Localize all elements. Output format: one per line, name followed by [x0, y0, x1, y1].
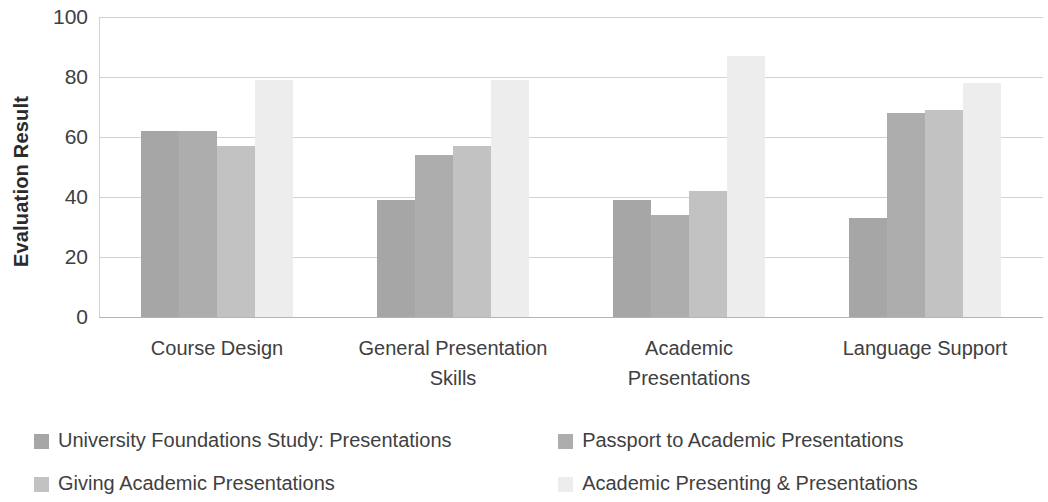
- legend-swatch-icon: [34, 477, 49, 492]
- bar[interactable]: [255, 80, 293, 317]
- bar-cluster: [613, 17, 765, 317]
- legend-swatch-icon: [34, 434, 49, 449]
- y-tick-label-80: 80: [65, 65, 88, 89]
- bar-groups: [99, 17, 1043, 317]
- bar-cluster: [141, 17, 293, 317]
- legend-label: Academic Presenting & Presentations: [582, 472, 918, 495]
- x-axis-label: Course Design: [99, 327, 335, 403]
- y-tick-label-20: 20: [65, 245, 88, 269]
- bar-cluster: [849, 17, 1001, 317]
- bar[interactable]: [887, 113, 925, 317]
- legend-item-passport-to-academic-presentations[interactable]: Passport to Academic Presentations: [558, 419, 1048, 462]
- bar[interactable]: [217, 146, 255, 317]
- bar[interactable]: [613, 200, 651, 317]
- y-tick-label-40: 40: [65, 185, 88, 209]
- bar[interactable]: [727, 56, 765, 317]
- legend-label: University Foundations Study: Presentati…: [58, 429, 452, 452]
- legend-label: Giving Academic Presentations: [58, 472, 335, 495]
- bar-group: [99, 17, 335, 317]
- plot-area: [99, 17, 1043, 317]
- chart-container: Evaluation Result 100806040200 Course De…: [0, 0, 1048, 502]
- bar[interactable]: [963, 83, 1001, 317]
- bar[interactable]: [849, 218, 887, 317]
- chart-legend: University Foundations Study: Presentati…: [0, 413, 1048, 502]
- legend-row-1: University Foundations Study: Presentati…: [34, 419, 1048, 462]
- bar-group: [571, 17, 807, 317]
- bar[interactable]: [377, 200, 415, 317]
- y-axis-title: Evaluation Result: [0, 40, 44, 322]
- bar-group: [807, 17, 1043, 317]
- bar[interactable]: [491, 80, 529, 317]
- y-tick-label-60: 60: [65, 125, 88, 149]
- bar[interactable]: [453, 146, 491, 317]
- x-axis-label: AcademicPresentations: [571, 327, 807, 403]
- gridline-0: [99, 317, 1043, 318]
- bar-group: [335, 17, 571, 317]
- y-axis-tick-labels: 100806040200: [44, 0, 94, 330]
- bar-cluster: [377, 17, 529, 317]
- legend-swatch-icon: [558, 477, 573, 492]
- bar[interactable]: [689, 191, 727, 317]
- x-axis-label: Language Support: [807, 327, 1043, 403]
- x-axis-category-labels: Course DesignGeneral PresentationSkillsA…: [99, 327, 1043, 403]
- bar[interactable]: [651, 215, 689, 317]
- legend-row-2: Giving Academic Presentations Academic P…: [34, 462, 1048, 502]
- y-tick-label-100: 100: [53, 5, 88, 29]
- y-tick-label-0: 0: [76, 305, 88, 329]
- x-axis-label: General PresentationSkills: [335, 327, 571, 403]
- legend-item-university-foundations-study[interactable]: University Foundations Study: Presentati…: [34, 419, 558, 462]
- bar[interactable]: [925, 110, 963, 317]
- legend-item-giving-academic-presentations[interactable]: Giving Academic Presentations: [34, 462, 558, 502]
- bar[interactable]: [179, 131, 217, 317]
- bar[interactable]: [141, 131, 179, 317]
- y-axis-title-text: Evaluation Result: [11, 95, 34, 266]
- legend-item-academic-presenting-and-presentations[interactable]: Academic Presenting & Presentations: [558, 462, 1048, 502]
- bar[interactable]: [415, 155, 453, 317]
- legend-swatch-icon: [558, 434, 573, 449]
- legend-label: Passport to Academic Presentations: [582, 429, 903, 452]
